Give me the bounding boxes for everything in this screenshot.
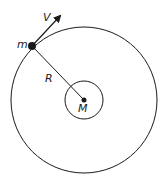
diagram-svg (0, 0, 165, 178)
central-mass-label: M (78, 103, 88, 114)
small-mass-label: m (17, 39, 28, 50)
radius-line (32, 46, 84, 100)
orbit-diagram: m V R M (0, 0, 165, 178)
small-mass-dot (28, 42, 36, 50)
radius-label: R (45, 73, 53, 84)
velocity-label: V (43, 12, 51, 23)
